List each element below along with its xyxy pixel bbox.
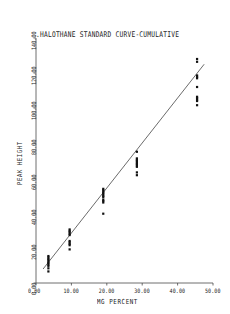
data-point	[47, 255, 49, 257]
data-point	[102, 201, 104, 203]
data-point	[196, 58, 198, 60]
data-point	[47, 270, 49, 272]
plot-area	[0, 0, 230, 314]
data-point	[69, 234, 71, 236]
data-point	[136, 151, 138, 153]
data-point	[196, 104, 198, 106]
data-point	[136, 171, 138, 173]
data-point	[47, 265, 49, 267]
data-points	[47, 58, 198, 273]
data-point	[102, 188, 104, 190]
data-point	[102, 196, 104, 198]
data-point	[69, 228, 71, 230]
axis-lines	[36, 38, 213, 283]
data-point	[136, 166, 138, 168]
data-point	[102, 213, 104, 215]
data-point	[196, 100, 198, 102]
data-point	[69, 244, 71, 246]
data-point	[69, 248, 71, 250]
data-point	[196, 77, 198, 79]
data-point	[47, 267, 49, 269]
chart-figure: .HALOTHANE STANDARD CURVE-CUMULATIVE PEA…	[0, 0, 230, 314]
data-point	[136, 174, 138, 176]
regression-line	[43, 64, 204, 269]
data-point	[196, 86, 198, 88]
axis-ticks	[34, 38, 214, 286]
data-point	[196, 61, 198, 63]
